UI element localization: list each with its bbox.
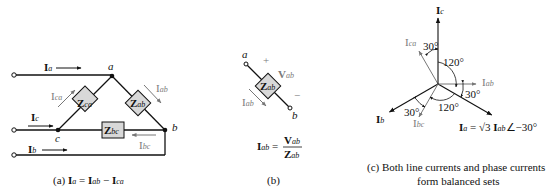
svg-text:Vab: Vab	[284, 134, 300, 146]
angle-label-30-right: 30°	[465, 88, 480, 100]
impedance-ca: Zca	[72, 86, 97, 111]
angle-label-120-top: 120°	[443, 56, 464, 68]
caption-c-line1: (c) Both line currents and phase current…	[367, 161, 545, 174]
terminal-b	[12, 153, 16, 157]
phasor-label-Ica: Ica	[405, 36, 416, 48]
phasor-label-Ib: Ib	[376, 113, 384, 125]
node-a-label: a	[108, 60, 114, 72]
caption-b: (b)	[267, 174, 280, 187]
node-a-dot	[110, 74, 115, 79]
ohms-law-equation: Iab = Vab Zab	[257, 134, 302, 160]
terminal-c	[12, 128, 16, 132]
plus-sign: +	[263, 54, 269, 66]
terminal-b-a	[244, 62, 248, 66]
node-b-label: b	[292, 109, 298, 121]
node-b-label: b	[172, 121, 178, 133]
node-a-label: a	[242, 48, 248, 60]
arc-30-right	[461, 83, 463, 97]
phasor-label-Ibc: Ibc	[413, 117, 425, 129]
label-Ica: Ica	[51, 90, 62, 102]
panel-a-delta-circuit: a b c Zca Zab Zbc Ia Ic Ib Ica Iab Ib	[12, 60, 178, 187]
minus-sign: −	[294, 89, 300, 101]
label-Ib: Ib	[28, 143, 36, 155]
label-Iab: Iab	[242, 96, 254, 108]
relation-Ia-sqrt3-Iab: Ia = √3 Iab∠−30°	[459, 121, 537, 133]
terminal-a	[12, 73, 16, 77]
diagram-canvas: a b c Zca Zab Zbc Ia Ic Ib Ica Iab Ib	[0, 0, 556, 194]
node-c-label: c	[55, 132, 60, 144]
caption-c-line2: form balanced sets	[417, 175, 499, 187]
voltage-Vab-label: Vab	[278, 68, 294, 80]
angle-label-30-top: 30°	[423, 40, 438, 52]
caption-a: (a) Ia = Iab − Ica	[53, 174, 124, 187]
phasor-label-Ic: Ic	[436, 4, 444, 16]
label-Iab: Iab	[156, 82, 168, 94]
phasor-Ica	[419, 51, 438, 84]
label-Ia: Ia	[44, 61, 52, 73]
impedance-bc: Zbc	[102, 122, 124, 138]
svg-text:Zab: Zab	[284, 148, 299, 160]
phasor-label-Iab: Iab	[482, 76, 494, 88]
panel-b-single-branch: a b + − Zab Vab Iab Iab = Vab Zab (b)	[242, 48, 302, 187]
label-Ibc: Ibc	[139, 139, 151, 151]
angle-label-30-left: 30°	[404, 106, 419, 118]
svg-text:Iab =: Iab =	[257, 140, 278, 152]
node-b-dot	[163, 128, 168, 133]
label-Ic: Ic	[31, 111, 39, 123]
angle-label-120-bottom: 120°	[438, 101, 459, 113]
panel-c-phasor-diagram: 30° 120° 30° 120° 30° Ic Ica Iab Ibc Ib …	[367, 4, 545, 187]
arc-120-bottom	[430, 93, 455, 100]
